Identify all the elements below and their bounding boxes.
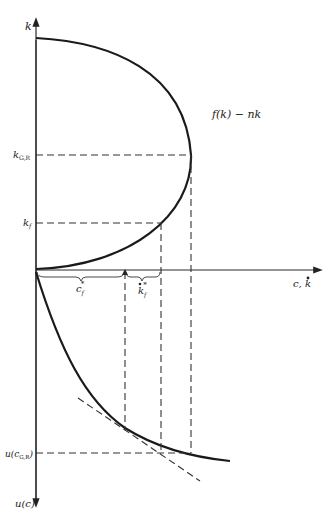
c-axis-label: c, [293, 278, 302, 289]
k-dot-marker [307, 277, 310, 280]
u-axis-label: u(c) [15, 498, 35, 509]
k-axis-label: k [25, 20, 32, 33]
u-c-gr-label: u(cG,R) [5, 449, 33, 460]
k-gr-label: kG,R [13, 149, 31, 161]
tangent-line [78, 398, 200, 481]
k-f-star-brace [126, 272, 160, 281]
golden-rule-diagram: k u(c) c, k f(k) − nk kG,R kf u(cG,R) cf… [0, 0, 336, 520]
utility-curve [36, 272, 230, 461]
k-dot-axis-label: k [305, 278, 311, 289]
f-k-curve-label: f(k) − nk [211, 108, 262, 121]
c-f-star-label: cf* [76, 280, 86, 297]
k-f-label: kf [23, 217, 33, 230]
k-f-star-dot [139, 283, 142, 286]
f-k-minus-nk-curve [36, 38, 191, 269]
